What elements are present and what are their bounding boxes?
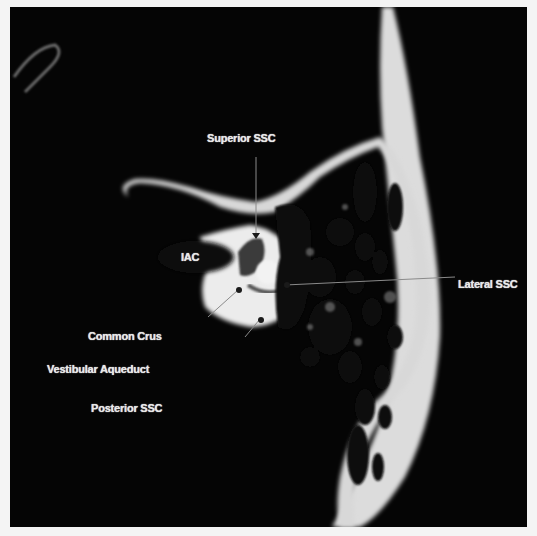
label-lateral-ssc: Lateral SSC [458,278,518,290]
label-common-crus: Common Crus [88,330,162,342]
soft-tissue-outline [14,45,59,92]
label-posterior-ssc: Posterior SSC [91,402,162,414]
ct-image-frame: Superior SSC IAC Lateral SSC Common Crus… [10,7,527,527]
ct-scan-image [10,7,527,527]
label-vestibular-aqueduct: Vestibular Aqueduct [47,363,149,375]
label-iac: IAC [181,251,199,263]
label-superior-ssc: Superior SSC [207,132,276,144]
